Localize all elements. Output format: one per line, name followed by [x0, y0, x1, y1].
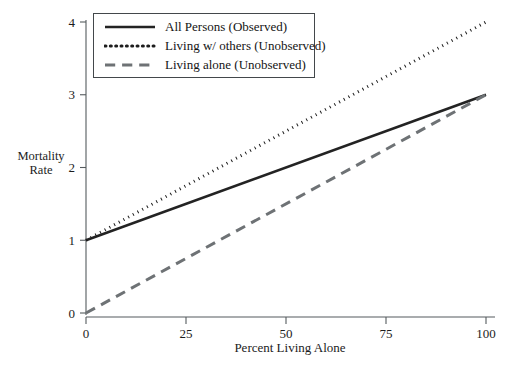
series-line-solid — [86, 95, 486, 241]
chart-figure: 01234 0255075100 Mortality Rate Percent … — [0, 0, 515, 374]
legend-item-list: All Persons (Observed)Living w/ others (… — [94, 14, 314, 77]
y-tick-label: 1 — [69, 233, 76, 248]
y-tick-label: 3 — [69, 87, 76, 102]
y-tick-label: 4 — [69, 15, 76, 30]
x-tick-label: 25 — [180, 326, 193, 341]
legend-swatch-dotted-icon — [104, 40, 156, 52]
x-tick-group: 0255075100 — [83, 317, 496, 341]
x-tick-label: 75 — [380, 326, 393, 341]
x-tick-label: 0 — [83, 326, 90, 341]
legend-label: Living alone (Unobserved) — [165, 58, 306, 71]
x-axis-title: Percent Living Alone — [234, 340, 345, 355]
legend-label: Living w/ others (Unobserved) — [165, 39, 326, 52]
x-tick-label: 50 — [280, 326, 293, 341]
legend-item[interactable]: Living w/ others (Unobserved) — [104, 36, 314, 55]
y-axis-title-line2: Rate — [30, 163, 53, 177]
y-tick-group: 01234 — [69, 15, 87, 321]
y-tick-label: 2 — [69, 160, 76, 175]
legend-swatch-dashed-icon — [104, 59, 156, 71]
legend-item[interactable]: All Persons (Observed) — [104, 17, 314, 36]
y-tick-label: 0 — [69, 306, 76, 321]
legend-label: All Persons (Observed) — [165, 20, 287, 33]
y-axis-title-line1: Mortality — [17, 149, 65, 163]
legend-item[interactable]: Living alone (Unobserved) — [104, 55, 314, 74]
x-tick-label: 100 — [476, 326, 496, 341]
series-line-dashed — [86, 95, 486, 313]
legend-swatch-solid-icon — [104, 21, 156, 33]
chart-legend: All Persons (Observed)Living w/ others (… — [93, 13, 315, 78]
